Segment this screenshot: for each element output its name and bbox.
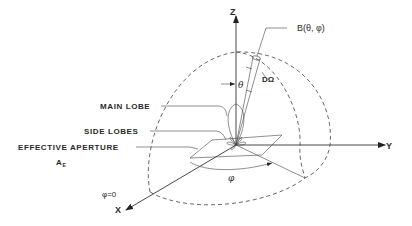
hemisphere-meridian: [236, 52, 305, 178]
diagram-svg: Z Y X B(θ, φ) DΩ θ φ φ=0 MAIN LOBE SIDE …: [0, 0, 412, 226]
aperture-leader: [136, 147, 198, 149]
aperture-symbol: AE: [56, 158, 66, 168]
x-axis-label: X: [115, 205, 121, 215]
z-axis-label: Z: [230, 7, 236, 17]
main-lobe-label: MAIN LOBE: [100, 102, 150, 111]
phi-radial-line: [236, 145, 305, 178]
axes: [126, 16, 385, 210]
leader-lines: [136, 28, 287, 149]
side-lobes-leader: [150, 131, 226, 140]
side-lobes-label: SIDE LOBES: [84, 127, 139, 136]
beam-cone: [236, 55, 266, 145]
solid-angle-label: DΩ: [262, 75, 275, 84]
y-axis-label: Y: [386, 141, 392, 151]
b-leader: [257, 28, 287, 56]
aperture-symbol-subscript: E: [62, 162, 66, 168]
main-lobe-leader: [161, 106, 227, 116]
theta-label: θ: [238, 80, 244, 90]
phi-label: φ: [228, 173, 235, 183]
phi-arc: [190, 162, 272, 170]
effective-aperture-label: EFFECTIVE APERTURE: [18, 143, 119, 152]
effective-aperture-plane: [190, 135, 282, 158]
phi-zero-label: φ=0: [102, 190, 117, 199]
brightness-label: B(θ, φ): [297, 23, 325, 33]
x-axis: [126, 145, 236, 210]
antenna-diagram: Z Y X B(θ, φ) DΩ θ φ φ=0 MAIN LOBE SIDE …: [0, 0, 412, 226]
solid-angle-patch: [252, 55, 261, 61]
